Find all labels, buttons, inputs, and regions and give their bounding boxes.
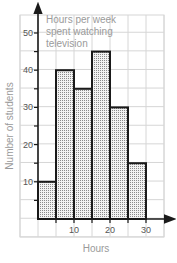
x-axis-label: Hours [83,243,110,254]
x-tick-label: 10 [69,225,79,235]
chart-title-line: Hours per week [46,14,117,25]
x-tick-label: 30 [141,225,151,235]
histogram-chart: 1020304050102030Hours per weekspent watc… [0,0,177,263]
y-tick-label: 50 [23,28,33,38]
y-tick-label: 20 [23,140,33,150]
y-tick-label: 30 [23,102,33,112]
y-tick-label: 10 [23,177,33,187]
histogram-bar [56,70,74,219]
histogram-bar [38,182,56,219]
chart-title-line: television [46,38,88,49]
x-tick-label: 20 [105,225,115,235]
histogram-bar [128,163,146,219]
bars [38,52,146,219]
histogram-bar [74,89,92,219]
y-axis-label: Number of students [4,82,15,169]
y-tick-label: 40 [23,65,33,75]
histogram-bar [92,52,110,219]
histogram-bar [110,107,128,219]
chart-title-line: spent watching [46,26,113,37]
